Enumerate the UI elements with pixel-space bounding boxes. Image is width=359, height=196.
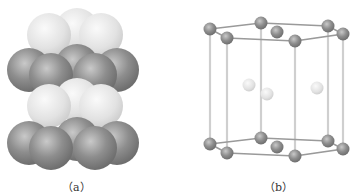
figure-canvas xyxy=(0,0,359,196)
interior-atoms xyxy=(243,79,324,101)
panel-b-caption: （b） xyxy=(264,178,293,194)
panel-a-space-filling-model xyxy=(7,8,139,170)
dark-layer-lower xyxy=(7,117,139,170)
bottom-face-atoms xyxy=(204,132,350,163)
panel-b-unit-cell xyxy=(204,17,350,163)
panel-a-caption: （a） xyxy=(62,178,91,194)
